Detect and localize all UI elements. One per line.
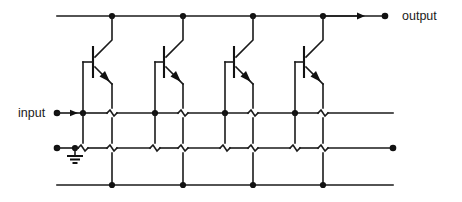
q3-collector-lead: [236, 16, 253, 57]
transistor-q3: [225, 16, 253, 113]
ground-rail-hop-q1-emitter: [107, 145, 117, 151]
transistor-q1: [83, 16, 112, 113]
ground-rail-hop-q3-base: [220, 145, 230, 151]
emitter-junction-dot: [320, 182, 326, 188]
diagram-canvas: output: [0, 0, 462, 202]
emitter-junction-dot: [250, 182, 256, 188]
base-rail-hop-q1: [107, 110, 117, 116]
transistor-q4: [295, 16, 323, 113]
ground-rail-hop-q2-base: [150, 145, 160, 151]
transistor-q2: [155, 16, 183, 113]
lower-vertical-wires: [112, 153, 323, 185]
base-rail-hop-q3: [248, 110, 258, 116]
input-direction-arrow-icon: [70, 110, 78, 116]
output-terminal-dot: [382, 13, 389, 20]
ground-rail-hop-q4-emitter: [318, 145, 328, 151]
input-label: input: [18, 106, 46, 120]
base-rail-hop-q2: [178, 110, 188, 116]
emitter-junction-dot: [180, 182, 186, 188]
ground-symbol-icon: [67, 148, 83, 163]
collector-output-rail-group: output: [57, 9, 437, 23]
ground-rail-group: [54, 145, 397, 163]
base-rail-hop-q4: [318, 110, 328, 116]
q2-collector-lead: [166, 16, 183, 57]
base-wires-lower: [83, 113, 323, 143]
q4-collector-lead: [306, 16, 323, 57]
ground-rail-hop-q3-emitter: [248, 145, 258, 151]
q1-collector-lead: [95, 16, 112, 57]
emitter-return-rail-group: [57, 182, 393, 188]
emitter-junction-dot: [109, 182, 115, 188]
ground-terminal-dot-right: [390, 145, 397, 152]
circuit-schematic: output: [0, 0, 462, 202]
base-input-rail-group: input: [18, 106, 393, 120]
ground-rail-hop-q1-base: [78, 145, 88, 151]
output-direction-arrow-icon: [357, 13, 365, 20]
output-label: output: [402, 9, 437, 23]
ground-rail-hop-q4-base: [290, 145, 300, 151]
ground-rail-hop-q2-emitter: [178, 145, 188, 151]
